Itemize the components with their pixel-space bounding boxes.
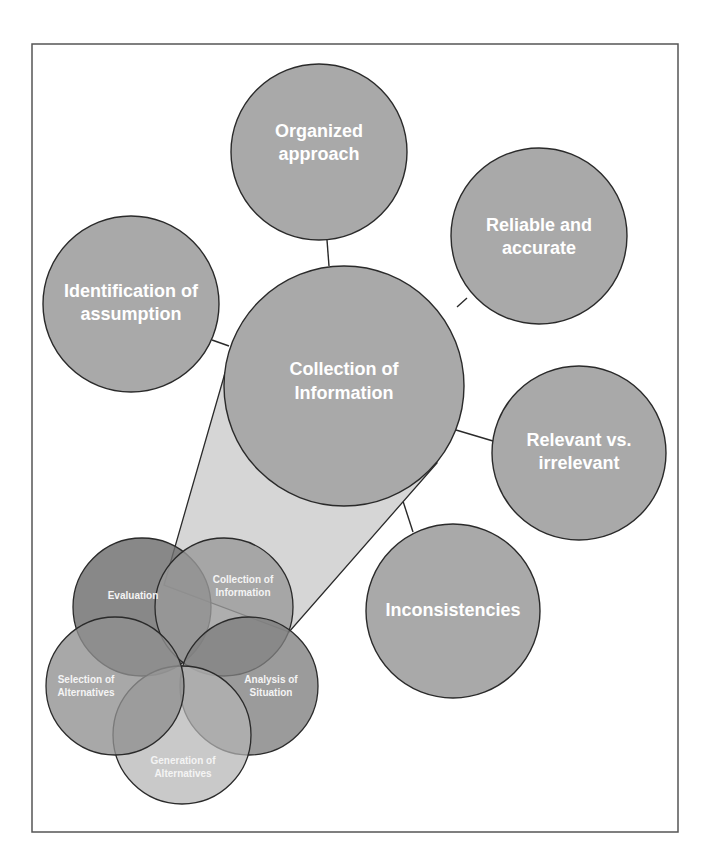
cycle-label-analysis-of-situation: Analysis of	[244, 674, 298, 685]
node-label: Reliable and	[486, 215, 592, 235]
connector-line-organized-approach	[327, 240, 329, 266]
node-label: Inconsistencies	[385, 600, 520, 620]
connector-line-relevant-vs-irrelevant	[456, 430, 493, 441]
connector-line-reliable-and-accurate	[457, 298, 467, 307]
hub-label: Information	[295, 383, 394, 403]
node-relevant-vs-irrelevant: Relevant vs.irrelevant	[492, 366, 666, 540]
cycle-label-analysis-of-situation: Situation	[250, 687, 293, 698]
node-inconsistencies: Inconsistencies	[366, 524, 540, 698]
node-circle	[451, 148, 627, 324]
node-organized-approach: Organizedapproach	[231, 64, 407, 240]
cycle-label-selection-of-alternatives: Selection of	[58, 674, 115, 685]
cycle-petal-selection-of-alternatives	[46, 617, 184, 755]
cycle-label-collection-of-information: Information	[216, 587, 271, 598]
node-label: Organized	[275, 121, 363, 141]
cycle-label-collection-of-information: Collection of	[213, 574, 274, 585]
hub-node: Collection ofInformation	[224, 266, 464, 506]
node-label: Identification of	[64, 281, 199, 301]
diagram-canvas: OrganizedapproachReliable andaccurateIde…	[0, 0, 703, 855]
node-label: accurate	[502, 238, 576, 258]
connector-line-identification-of-assumption	[212, 340, 229, 346]
node-label: irrelevant	[538, 453, 619, 473]
hub-label: Collection of	[290, 359, 400, 379]
cycle-label-selection-of-alternatives: Alternatives	[57, 687, 115, 698]
node-label: approach	[278, 144, 359, 164]
node-identification-of-assumption: Identification ofassumption	[43, 216, 219, 392]
cycle-label-evaluation: Evaluation	[108, 590, 159, 601]
cycle-label-generation-of-alternatives: Alternatives	[154, 768, 212, 779]
cycle-label-generation-of-alternatives: Generation of	[150, 755, 216, 766]
node-reliable-and-accurate: Reliable andaccurate	[451, 148, 627, 324]
node-label: assumption	[80, 304, 181, 324]
node-label: Relevant vs.	[526, 430, 631, 450]
